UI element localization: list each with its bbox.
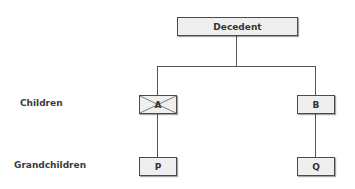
child-node-b: B xyxy=(297,95,335,114)
connector-root-down xyxy=(236,35,237,66)
connector-a-to-p xyxy=(157,113,158,157)
grandchild-node-p: P xyxy=(139,157,177,176)
connector-to-a xyxy=(157,66,158,95)
level-label-grandchildren: Grandchildren xyxy=(14,160,86,170)
connector-horizontal xyxy=(157,66,316,67)
grandchild-node-q: Q xyxy=(297,157,335,176)
grandchild-label-q: Q xyxy=(312,162,320,172)
decedent-label: Decedent xyxy=(213,22,261,32)
level-label-children: Children xyxy=(20,98,63,108)
connector-b-to-q xyxy=(315,113,316,157)
grandchild-label-p: P xyxy=(155,162,162,172)
connector-to-b xyxy=(315,66,316,95)
child-label-b: B xyxy=(313,100,320,110)
child-label-a: A xyxy=(155,100,162,110)
child-node-a: A xyxy=(139,95,177,114)
decedent-node: Decedent xyxy=(177,17,298,36)
